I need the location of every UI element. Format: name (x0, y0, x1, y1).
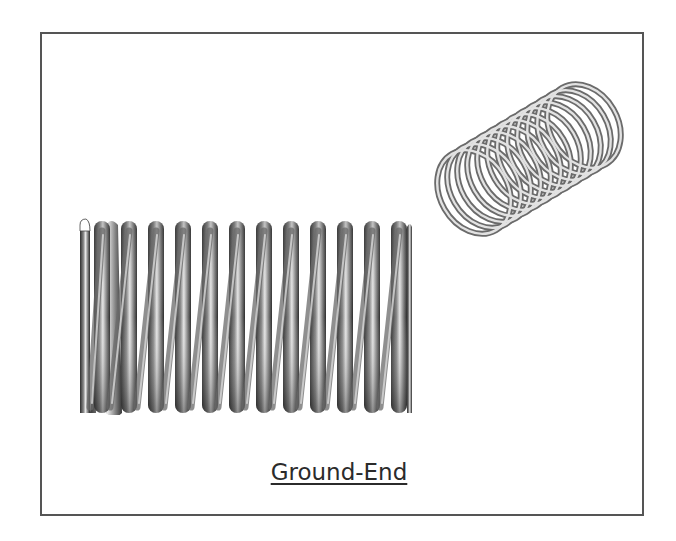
side-view-spring-illustration (78, 217, 414, 415)
figure-frame: Ground-End (40, 32, 644, 516)
isometric-spring-illustration (426, 80, 626, 240)
figure-caption: Ground-End (259, 459, 419, 485)
